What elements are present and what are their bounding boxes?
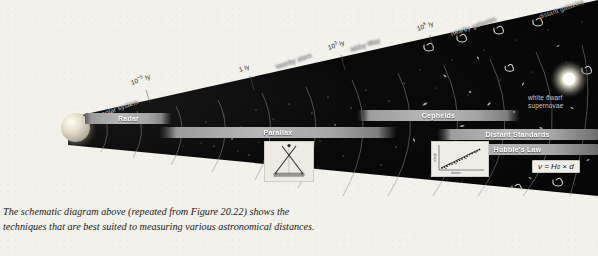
bar-parallax-label: Parallax — [264, 129, 293, 136]
inset-hubble-diagram[interactable]: velocity distance — [431, 141, 489, 177]
hubble-formula-box: v = H0 × d — [532, 160, 580, 173]
inset-parallax-diagram[interactable] — [264, 141, 314, 182]
formula-times: × — [562, 162, 567, 171]
label-white-dwarf: white dwarf — [528, 94, 563, 101]
bar-hubbles-law-label: Hubble's Law — [494, 146, 542, 153]
parallax-triangle-icon — [265, 142, 313, 181]
hubble-scatter-icon: velocity distance — [432, 142, 488, 176]
figure-root: 10−5 ly 1 ly 103 ly 106 ly solar system … — [0, 0, 598, 256]
tick-exponent: 6 — [423, 21, 427, 27]
bar-parallax[interactable]: Parallax — [159, 127, 397, 138]
bar-cepheids-label: Cepheids — [422, 112, 456, 119]
bar-distant-standards-label: Distant Standards — [485, 131, 549, 138]
caption-line-2: techniques that are best suited to measu… — [3, 220, 373, 235]
formula-distance: d — [569, 162, 574, 171]
formula-equals: = — [544, 162, 549, 171]
tick-exponent: 3 — [334, 40, 338, 46]
formula-velocity: v — [538, 162, 542, 171]
hubble-inset-xlabel: distance — [451, 171, 461, 175]
hubble-inset-ylabel: velocity — [433, 153, 437, 162]
label-supernovae: supernovae — [528, 102, 563, 109]
figure-caption: The schematic diagram above (repeated fr… — [3, 205, 373, 234]
bar-distant-standards[interactable]: Distant Standards — [437, 129, 598, 140]
bar-cepheids[interactable]: Cepheids — [357, 110, 520, 121]
bar-radar[interactable]: Radar — [85, 113, 172, 124]
caption-line-1: The schematic diagram above (repeated fr… — [3, 205, 373, 220]
tick-exponent: −5 — [137, 74, 144, 81]
bar-radar-label: Radar — [118, 115, 139, 122]
